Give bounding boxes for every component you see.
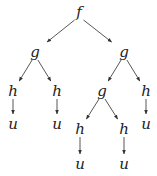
edge-arrow <box>127 60 140 81</box>
node-h: h <box>119 120 129 138</box>
node-h: h <box>52 82 62 100</box>
tree-nodes: fgghhghuuhhuuu <box>8 3 151 173</box>
node-g: g <box>30 43 40 61</box>
edge-arrow <box>86 99 99 119</box>
edge-arrow <box>105 99 118 119</box>
node-g: g <box>119 43 129 61</box>
node-u: u <box>141 115 151 133</box>
node-f: f <box>75 3 84 21</box>
edge-arrow <box>84 20 112 42</box>
node-u: u <box>52 115 62 133</box>
node-h: h <box>141 82 151 100</box>
node-u: u <box>8 115 18 133</box>
edge-arrow <box>47 20 75 42</box>
tree-diagram: fgghhghuuhhuuu <box>0 0 157 176</box>
edge-arrow <box>108 60 121 81</box>
node-h: h <box>75 120 85 138</box>
edge-arrow <box>19 60 32 81</box>
node-u: u <box>119 155 129 173</box>
edge-arrow <box>38 60 51 81</box>
node-h: h <box>8 82 18 100</box>
node-g: g <box>97 82 107 100</box>
node-u: u <box>75 155 85 173</box>
